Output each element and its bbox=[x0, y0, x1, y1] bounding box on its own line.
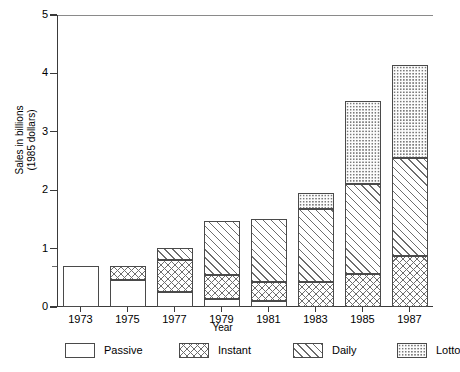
y-tick-label: 2 bbox=[26, 184, 48, 195]
legend-item-daily[interactable]: Daily bbox=[293, 339, 356, 361]
y-tick-mark bbox=[50, 131, 57, 132]
bar-1979 bbox=[204, 15, 240, 307]
bar-segment-lotto-1987 bbox=[392, 65, 428, 158]
bar-1977 bbox=[157, 15, 193, 307]
x-tick-mark bbox=[174, 307, 175, 312]
x-tick-mark bbox=[315, 307, 316, 312]
bar-segment-lotto-1983 bbox=[298, 193, 334, 209]
bar-segment-daily-1977 bbox=[157, 248, 193, 260]
bar-segment-instant-1975 bbox=[110, 266, 146, 280]
legend-swatch-daily-icon bbox=[293, 343, 323, 358]
x-tick-mark bbox=[409, 307, 410, 312]
y-tick-label: 5 bbox=[26, 9, 48, 20]
y-tick-mark bbox=[50, 14, 57, 15]
x-tick-mark bbox=[268, 307, 269, 312]
bar-segment-instant-1979 bbox=[204, 275, 240, 300]
bar-1983 bbox=[298, 15, 334, 307]
legend-item-passive[interactable]: Passive bbox=[65, 339, 143, 361]
bar-segment-daily-1985 bbox=[345, 184, 381, 274]
chart-legend: PassiveInstantDailyLotto bbox=[57, 339, 433, 363]
y-tick-label: 1 bbox=[26, 243, 48, 254]
legend-swatch-instant-icon bbox=[179, 343, 209, 358]
bar-segment-passive-1975 bbox=[110, 280, 146, 307]
y-tick-label: 3 bbox=[26, 126, 48, 137]
bar-segment-instant-1987 bbox=[392, 256, 428, 307]
legend-label: Instant bbox=[218, 344, 251, 356]
bar-1975 bbox=[110, 15, 146, 307]
y-tick-mark bbox=[50, 306, 57, 307]
x-tick-mark bbox=[221, 307, 222, 312]
x-tick-mark bbox=[80, 307, 81, 312]
legend-label: Passive bbox=[104, 344, 143, 356]
y-tick-label: 4 bbox=[26, 67, 48, 78]
bar-1985 bbox=[345, 15, 381, 307]
y-tick-mark bbox=[50, 248, 57, 249]
bar-segment-instant-1983 bbox=[298, 282, 334, 307]
x-tick-mark bbox=[127, 307, 128, 312]
y-minor-tick-mark bbox=[52, 266, 57, 267]
legend-label: Daily bbox=[332, 344, 356, 356]
bar-1987 bbox=[392, 15, 428, 307]
bar-segment-instant-1977 bbox=[157, 260, 193, 292]
bar-segment-passive-1977 bbox=[157, 292, 193, 307]
bar-segment-passive-1973 bbox=[63, 266, 99, 307]
x-tick-mark bbox=[362, 307, 363, 312]
bar-segment-daily-1987 bbox=[392, 158, 428, 256]
bar-1973 bbox=[63, 15, 99, 307]
bar-segment-passive-1979 bbox=[204, 299, 240, 307]
bar-segment-lotto-1985 bbox=[345, 101, 381, 184]
legend-item-lotto[interactable]: Lotto bbox=[397, 339, 460, 361]
bar-1981 bbox=[251, 15, 287, 307]
bar-segment-instant-1981 bbox=[251, 282, 287, 301]
bar-segment-daily-1983 bbox=[298, 209, 334, 282]
bar-segment-daily-1981 bbox=[251, 219, 287, 282]
bar-segment-daily-1979 bbox=[204, 221, 240, 275]
x-axis-title: Year bbox=[0, 322, 445, 333]
y-tick-label: 0 bbox=[26, 301, 48, 312]
y-tick-mark bbox=[50, 190, 57, 191]
legend-item-instant[interactable]: Instant bbox=[179, 339, 251, 361]
legend-label: Lotto bbox=[436, 344, 460, 356]
legend-swatch-passive-icon bbox=[65, 343, 95, 358]
bar-segment-passive-1981 bbox=[251, 301, 287, 307]
bar-segment-instant-1985 bbox=[345, 274, 381, 307]
y-tick-mark bbox=[50, 73, 57, 74]
legend-swatch-lotto-icon bbox=[397, 343, 427, 358]
